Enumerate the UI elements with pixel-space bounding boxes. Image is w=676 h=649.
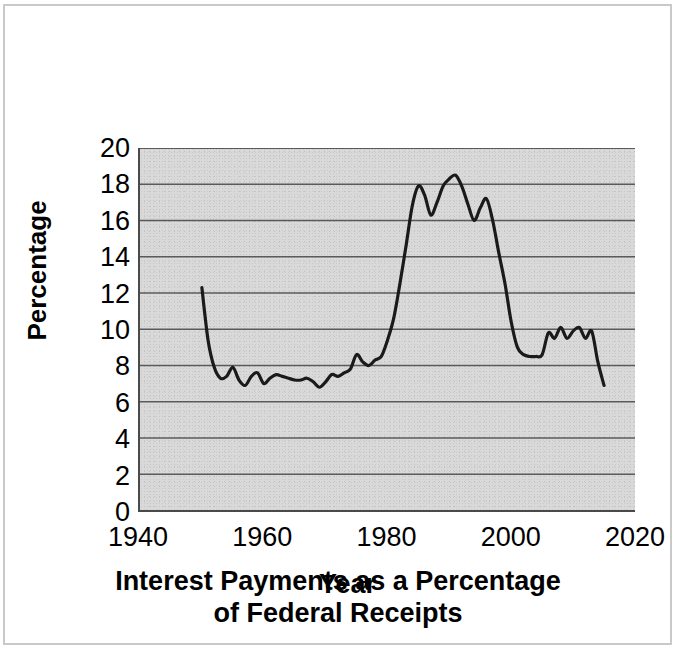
x-axis-tick-labels: 19401960198020002020 (138, 524, 635, 558)
chart-figure: Percentage 20181614121086420 19401960198… (0, 0, 676, 649)
x-tick-label: 1960 (232, 524, 292, 551)
y-tick-label: 8 (84, 353, 130, 380)
x-tick-label: 2020 (605, 524, 665, 551)
y-tick-label: 18 (84, 171, 130, 198)
x-tick-label: 1940 (108, 524, 168, 551)
y-axis-title: Percentage (22, 176, 53, 366)
data-series-line (202, 175, 604, 387)
y-tick-label: 12 (84, 280, 130, 307)
y-tick-label: 4 (84, 426, 130, 453)
y-tick-label: 16 (84, 207, 130, 234)
plot-svg (140, 148, 635, 511)
y-tick-label: 20 (84, 135, 130, 162)
x-tick-label: 2000 (481, 524, 541, 551)
y-axis-tick-labels: 20181614121086420 (78, 148, 130, 512)
y-tick-label: 6 (84, 389, 130, 416)
plot-area (138, 148, 635, 512)
gridlines (140, 148, 635, 474)
chart-title-line-2: of Federal Receipts (0, 598, 676, 630)
x-axis-title: Year (319, 569, 376, 601)
x-tick-label: 1980 (356, 524, 416, 551)
y-tick-label: 14 (84, 244, 130, 271)
y-tick-label: 2 (84, 462, 130, 489)
y-tick-label: 10 (84, 317, 130, 344)
